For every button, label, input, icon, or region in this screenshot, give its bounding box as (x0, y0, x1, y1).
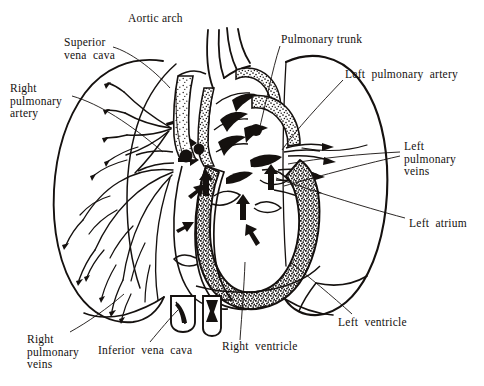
label-superior-vena-cava: Superiorvena cava (64, 36, 115, 61)
left-pulmonary-artery-vessels (284, 144, 328, 160)
label-left-pulmonary-veins: Leftpulmonaryveins (404, 140, 456, 178)
label-aortic-arch: Aortic arch (128, 12, 183, 25)
label-inferior-vena-cava: Inferior vena cava (98, 344, 192, 357)
label-left-pulmonary-artery: Left pulmonary artery (345, 68, 458, 81)
label-right-pulmonary-veins-line1: Right (27, 333, 54, 345)
label-left-ventricle: Left ventricle (338, 316, 407, 329)
label-right-pulmonary-veins-line3: veins (27, 358, 53, 370)
right-pulmonary-artery-hilum (136, 151, 174, 171)
anatomical-figure: Aortic arch Superiorvena cava Rightpulmo… (0, 0, 484, 386)
label-left-atrium: Left atrium (409, 217, 467, 230)
leader-superior-vena-cava (113, 47, 170, 88)
label-right-pulmonary-artery-line2: pulmonary (10, 95, 62, 107)
label-superior-vena-cava-line1: Superior (64, 36, 106, 48)
vessel-cross-section-b (194, 144, 205, 155)
pulmonary-trunk (252, 95, 300, 146)
label-right-pulmonary-veins: Rightpulmonaryveins (27, 333, 79, 371)
leader-left-pulmonary-veins-1 (288, 152, 400, 164)
label-left-pulmonary-veins-line2: pulmonary (404, 153, 456, 165)
label-right-pulmonary-artery: Rightpulmonaryartery (10, 82, 62, 120)
label-left-pulmonary-veins-line1: Left (404, 140, 424, 152)
label-left-pulmonary-veins-line3: veins (404, 165, 430, 177)
label-right-ventricle: Right ventricle (222, 340, 298, 353)
label-right-pulmonary-veins-line2: pulmonary (27, 346, 79, 358)
right-pulmonary-artery-branches (106, 83, 171, 173)
right-pulmonary-vein-branches (66, 170, 173, 312)
label-right-pulmonary-artery-line3: artery (10, 107, 38, 119)
label-superior-vena-cava-line2: vena cava (64, 49, 115, 61)
chamber-flow-arrows (176, 164, 278, 246)
label-right-pulmonary-artery-line1: Right (10, 82, 37, 94)
label-pulmonary-trunk: Pulmonary trunk (281, 33, 362, 46)
